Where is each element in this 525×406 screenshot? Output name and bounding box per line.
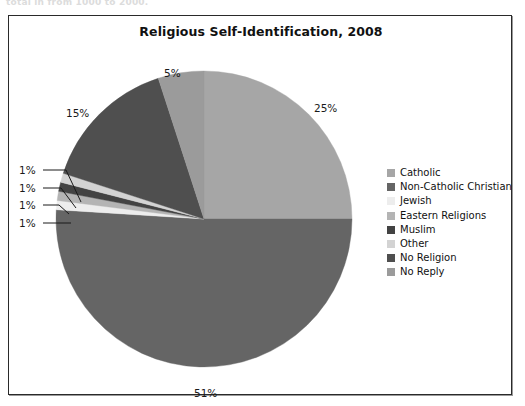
legend-item-label: No Reply [400,267,444,277]
legend-item: No Religion [387,251,517,265]
legend-item-label: Other [400,239,428,249]
legend-item: Jewish [387,194,517,208]
pie-percent-label: 1% [19,182,36,194]
pie-percent-label: 1% [19,164,36,176]
legend-item-label: No Religion [400,253,457,263]
legend-item-label: Catholic [400,168,441,178]
pie-slice [56,210,352,367]
pie-percent-label: 1% [19,217,36,229]
legend-swatch-icon [387,169,395,177]
legend-item: Non-Catholic Christian [387,180,517,194]
legend-item: Catholic [387,166,517,180]
legend-swatch-icon [387,212,395,220]
pie-slice-group [56,71,352,367]
legend-swatch-icon [387,197,395,205]
legend-item: No Reply [387,265,517,279]
pie-percent-label: 5% [164,67,181,79]
pie-percent-label: 51% [194,387,217,399]
legend-item-label: Eastern Religions [400,211,486,221]
page-caption-strip: total in from 1000 to 2000. [0,0,525,14]
legend-item-label: Non-Catholic Christian [400,182,512,192]
legend-swatch-icon [387,226,395,234]
legend-swatch-icon [387,240,395,248]
legend-swatch-icon [387,268,395,276]
caption-text: total in from 1000 to 2000. [6,0,148,7]
legend-item-label: Muslim [400,225,435,235]
legend-swatch-icon [387,254,395,262]
pie-slice [204,71,352,219]
legend-item-label: Jewish [400,196,432,206]
chart-legend: CatholicNon-Catholic ChristianJewishEast… [387,166,517,280]
pie-percent-label: 15% [66,107,89,119]
chart-frame: Religious Self-Identification, 2008 25%5… [8,15,512,395]
legend-item: Muslim [387,223,517,237]
pie-percent-label: 25% [314,102,337,114]
legend-swatch-icon [387,183,395,191]
legend-item: Other [387,237,517,251]
legend-item: Eastern Religions [387,209,517,223]
pie-percent-label: 1% [19,199,36,211]
